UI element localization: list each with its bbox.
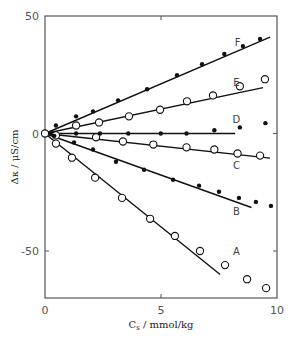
series-label-a: A	[233, 246, 240, 257]
open-marker-e	[95, 119, 102, 126]
filled-marker-d	[159, 131, 163, 135]
open-marker-c	[92, 134, 99, 141]
series-label-f: F	[235, 37, 241, 48]
open-marker-e	[125, 113, 132, 120]
open-marker-c	[150, 141, 157, 148]
chart: 0510500-50 FEDCBA Cs / mmol/kg Δκ / μS/c…	[0, 0, 294, 343]
filled-marker-d	[263, 121, 267, 125]
filled-marker-b	[237, 196, 241, 200]
filled-marker-b	[171, 178, 175, 182]
y-tick-label: 0	[32, 128, 39, 141]
open-marker-a	[146, 215, 153, 222]
filled-marker-f	[116, 98, 120, 102]
filled-marker-b	[269, 204, 273, 208]
open-marker-a	[92, 174, 99, 181]
filled-marker-b	[197, 183, 201, 187]
open-marker-a	[41, 130, 48, 137]
plot-border	[45, 16, 277, 298]
y-tick-label: 50	[25, 10, 39, 23]
open-marker-e	[183, 98, 190, 105]
filled-marker-f	[241, 44, 245, 48]
filled-marker-f	[200, 62, 204, 66]
open-marker-c	[183, 144, 190, 151]
filled-marker-b	[254, 200, 258, 204]
open-marker-e	[156, 106, 163, 113]
filled-marker-d	[184, 131, 188, 135]
x-tick-label: 5	[158, 304, 165, 317]
open-marker-a	[52, 140, 59, 147]
series-label-d: D	[233, 114, 241, 125]
axis-ticks: 0510500-50	[21, 10, 284, 317]
open-marker-a	[243, 276, 250, 283]
open-marker-e	[261, 76, 268, 83]
plot-frame	[45, 16, 277, 298]
series-label-e: E	[233, 77, 239, 88]
filled-marker-b	[52, 134, 56, 138]
filled-marker-f	[175, 73, 179, 77]
filled-marker-d	[212, 128, 216, 132]
filled-marker-f	[258, 37, 262, 41]
filled-marker-b	[91, 147, 95, 151]
open-marker-e	[72, 122, 79, 129]
x-tick-label: 0	[42, 304, 49, 317]
open-marker-a	[118, 194, 125, 201]
filled-marker-b	[114, 160, 118, 164]
open-marker-a	[262, 285, 269, 292]
filled-marker-d	[74, 131, 78, 135]
open-marker-c	[256, 152, 263, 159]
open-marker-e	[209, 92, 216, 99]
filled-marker-f	[222, 52, 226, 56]
open-marker-c	[119, 138, 126, 145]
open-marker-c	[211, 146, 218, 153]
filled-marker-f	[145, 87, 149, 91]
open-marker-a	[171, 232, 178, 239]
x-axis-label: Cs / mmol/kg	[129, 319, 195, 332]
filled-marker-f	[74, 114, 78, 118]
filled-marker-d	[238, 125, 242, 129]
filled-marker-b	[72, 140, 76, 144]
open-marker-a	[196, 247, 203, 254]
series-label-b: B	[233, 206, 240, 217]
filled-marker-f	[54, 123, 58, 127]
series-label-c: C	[233, 160, 240, 171]
y-tick-label: -50	[21, 245, 39, 258]
open-marker-c	[234, 150, 241, 157]
filled-marker-d	[126, 131, 130, 135]
open-marker-a	[68, 154, 75, 161]
series-labels: FEDCBA	[233, 37, 241, 257]
filled-marker-b	[142, 167, 146, 171]
x-tick-label: 10	[270, 304, 284, 317]
open-marker-a	[221, 262, 228, 269]
filled-marker-b	[217, 190, 221, 194]
filled-marker-f	[91, 109, 95, 113]
y-axis-label: Δκ / μS/cm	[9, 129, 20, 185]
